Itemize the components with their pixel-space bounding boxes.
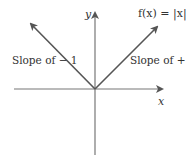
- right-slope-annotation: Slope of + 1: [130, 55, 186, 66]
- absolute-value-graph: f(x) = |x| y x Slope of − 1 Slope of + 1: [0, 0, 186, 164]
- left-slope-annotation: Slope of − 1: [12, 55, 78, 66]
- graph-canvas: [0, 0, 186, 164]
- y-axis-label: y: [85, 9, 91, 20]
- x-axis-label: x: [158, 96, 164, 107]
- function-label: f(x) = |x|: [138, 8, 186, 19]
